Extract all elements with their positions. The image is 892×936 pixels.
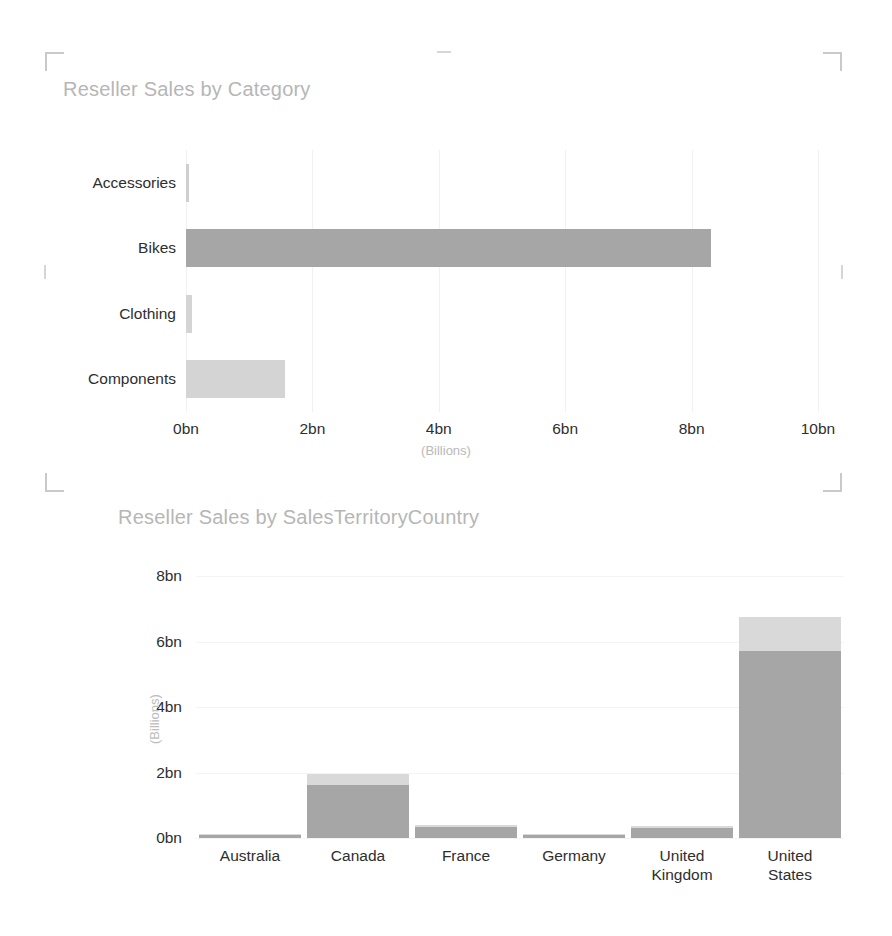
xtick-4bn: 4bn: [409, 420, 469, 438]
country-label-germany: Germany: [520, 846, 628, 865]
xtick-0bn: 0bn: [156, 420, 216, 438]
reseller-sales-by-country-chart[interactable]: Reseller Sales by SalesTerritoryCountry …: [0, 496, 892, 936]
country-label-canada: Canada: [304, 846, 412, 865]
chart-title-category: Reseller Sales by Category: [63, 78, 311, 101]
country-label-australia: Australia: [196, 846, 304, 865]
column-australia[interactable]: [199, 834, 301, 838]
column-segment-lower[interactable]: [415, 827, 517, 838]
gridline: [565, 150, 566, 412]
category-label-clothing: Clothing: [0, 305, 176, 323]
chart-title-country: Reseller Sales by SalesTerritoryCountry: [118, 506, 479, 529]
column-segment-lower[interactable]: [307, 785, 409, 838]
xtick-8bn: 8bn: [662, 420, 722, 438]
gridline: [439, 150, 440, 412]
gridline: [196, 838, 844, 839]
xtick-2bn: 2bn: [282, 420, 342, 438]
country-label-united-kingdom: UnitedKingdom: [628, 846, 736, 884]
gridline: [312, 150, 313, 412]
ytick-8bn: 8bn: [120, 567, 182, 585]
gridline: [196, 576, 844, 577]
column-segment-lower[interactable]: [523, 835, 625, 838]
column-germany[interactable]: [523, 834, 625, 838]
column-segment-upper[interactable]: [739, 617, 841, 650]
column-segment-lower[interactable]: [631, 828, 733, 838]
country-label-france: France: [412, 846, 520, 865]
xtick-6bn: 6bn: [535, 420, 595, 438]
column-united-states[interactable]: [739, 617, 841, 838]
category-label-bikes: Bikes: [0, 239, 176, 257]
column-canada[interactable]: [307, 774, 409, 838]
gridline: [692, 150, 693, 412]
country-chart-yaxis-title: (Billions): [147, 694, 162, 744]
column-segment-upper[interactable]: [307, 774, 409, 784]
bar-bikes[interactable]: [186, 229, 711, 267]
ytick-0bn: 0bn: [120, 829, 182, 847]
reseller-sales-by-category-chart[interactable]: Reseller Sales by Category AccessoriesBi…: [0, 0, 892, 500]
bar-components[interactable]: [186, 360, 285, 398]
column-segment-lower[interactable]: [199, 835, 301, 838]
bar-clothing[interactable]: [186, 295, 192, 333]
ytick-2bn: 2bn: [120, 764, 182, 782]
column-france[interactable]: [415, 825, 517, 838]
column-united-kingdom[interactable]: [631, 826, 733, 838]
country-label-united-states: UnitedStates: [736, 846, 844, 884]
xtick-10bn: 10bn: [788, 420, 848, 438]
ytick-6bn: 6bn: [120, 633, 182, 651]
bar-accessories[interactable]: [186, 164, 189, 202]
category-label-components: Components: [0, 370, 176, 388]
gridline: [818, 150, 819, 412]
category-label-accessories: Accessories: [0, 174, 176, 192]
category-chart-xaxis-title: (Billions): [0, 443, 892, 458]
column-segment-lower[interactable]: [739, 651, 841, 838]
